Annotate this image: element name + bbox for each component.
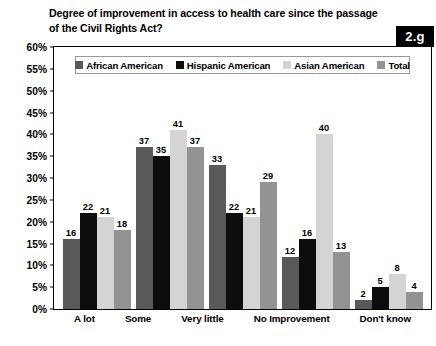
legend-swatch-icon — [377, 61, 385, 69]
bar[interactable] — [153, 156, 170, 309]
legend-item[interactable]: African American — [75, 60, 163, 71]
bar[interactable] — [389, 274, 406, 309]
bar-column[interactable]: 41 — [170, 47, 187, 309]
bar[interactable] — [355, 300, 372, 309]
bar-group: 16222118 — [63, 47, 131, 309]
chart-title: Degree of improvement in access to healt… — [49, 6, 389, 35]
bar-column[interactable]: 18 — [114, 47, 131, 309]
bar-column[interactable]: 2 — [355, 47, 372, 309]
legend-label: Asian American — [294, 60, 364, 71]
legend-swatch-icon — [176, 61, 184, 69]
legend-swatch-icon — [75, 61, 83, 69]
x-axis-label: Don't know — [360, 313, 411, 333]
bar[interactable] — [243, 217, 260, 309]
bar-value-label: 21 — [246, 206, 256, 216]
legend-label: Hispanic American — [187, 60, 270, 71]
figure-badge: 2.g — [396, 26, 434, 47]
bar-column[interactable]: 35 — [153, 47, 170, 309]
bar-value-label: 40 — [319, 123, 329, 133]
bar-group: 37354137 — [136, 47, 204, 309]
bar[interactable] — [114, 230, 131, 309]
bar-column[interactable]: 22 — [226, 47, 243, 309]
bar-value-label: 13 — [336, 241, 346, 251]
bar[interactable] — [209, 165, 226, 309]
bar-column[interactable]: 29 — [260, 47, 277, 309]
x-axis-label: No Improvement — [254, 313, 330, 333]
bar[interactable] — [187, 147, 204, 309]
bar-value-label: 37 — [139, 136, 149, 146]
bar[interactable] — [63, 239, 80, 309]
bar-column[interactable]: 8 — [389, 47, 406, 309]
plot-inner: 0%5%10%15%20%25%30%35%40%45%50%55%60% 16… — [54, 47, 431, 309]
bar[interactable] — [80, 213, 97, 309]
bar-value-label: 22 — [229, 202, 239, 212]
bar[interactable] — [316, 134, 333, 309]
bar-value-label: 4 — [411, 281, 416, 291]
chart-legend: African AmericanHispanic AmericanAsian A… — [75, 56, 410, 74]
bar-column[interactable]: 12 — [282, 47, 299, 309]
chart-page: Degree of improvement in access to healt… — [0, 0, 436, 346]
bar-column[interactable]: 5 — [372, 47, 389, 309]
x-axis-label: Some — [125, 313, 151, 333]
bar-groups: 162221183735413733222129121640132584 — [54, 47, 431, 309]
bar-value-label: 8 — [394, 263, 399, 273]
bar[interactable] — [299, 239, 316, 309]
x-axis-labels: A lotSomeVery littleNo ImprovementDon't … — [53, 313, 432, 333]
bar[interactable] — [372, 287, 389, 309]
bar[interactable] — [260, 182, 277, 309]
bar-column[interactable]: 16 — [63, 47, 80, 309]
bar-column[interactable]: 33 — [209, 47, 226, 309]
bar-column[interactable]: 4 — [406, 47, 423, 309]
bar-value-label: 18 — [117, 219, 127, 229]
x-axis-label: A lot — [74, 313, 95, 333]
bar-value-label: 5 — [377, 276, 382, 286]
bar-column[interactable]: 21 — [97, 47, 114, 309]
bar-column[interactable]: 37 — [187, 47, 204, 309]
bar-column[interactable]: 22 — [80, 47, 97, 309]
bar-group: 12164013 — [282, 47, 350, 309]
bar-value-label: 29 — [263, 171, 273, 181]
bar[interactable] — [282, 257, 299, 309]
bar[interactable] — [97, 217, 114, 309]
bar-group: 33222129 — [209, 47, 277, 309]
legend-item[interactable]: Asian American — [283, 60, 364, 71]
legend-item[interactable]: Total — [377, 60, 409, 71]
bar[interactable] — [136, 147, 153, 309]
legend-label: Total — [388, 60, 409, 71]
bar-value-label: 16 — [302, 228, 312, 238]
bar-group: 2584 — [355, 47, 423, 309]
x-axis-label: Very little — [181, 313, 223, 333]
legend-label: African American — [86, 60, 163, 71]
bar-column[interactable]: 21 — [243, 47, 260, 309]
bar-column[interactable]: 16 — [299, 47, 316, 309]
bar-value-label: 35 — [156, 145, 166, 155]
legend-item[interactable]: Hispanic American — [176, 60, 270, 71]
bar-value-label: 33 — [212, 154, 222, 164]
bar-value-label: 41 — [173, 119, 183, 129]
bar-value-label: 37 — [190, 136, 200, 146]
bar[interactable] — [333, 252, 350, 309]
bar[interactable] — [406, 292, 423, 309]
bar-value-label: 2 — [360, 289, 365, 299]
bar-value-label: 21 — [100, 206, 110, 216]
bar[interactable] — [226, 213, 243, 309]
bar[interactable] — [170, 130, 187, 309]
bar-column[interactable]: 13 — [333, 47, 350, 309]
bar-value-label: 16 — [66, 228, 76, 238]
bar-column[interactable]: 40 — [316, 47, 333, 309]
legend-swatch-icon — [283, 61, 291, 69]
bar-value-label: 12 — [285, 246, 295, 256]
bar-value-label: 22 — [83, 202, 93, 212]
bar-column[interactable]: 37 — [136, 47, 153, 309]
plot-area: 0%5%10%15%20%25%30%35%40%45%50%55%60% 16… — [53, 46, 432, 310]
